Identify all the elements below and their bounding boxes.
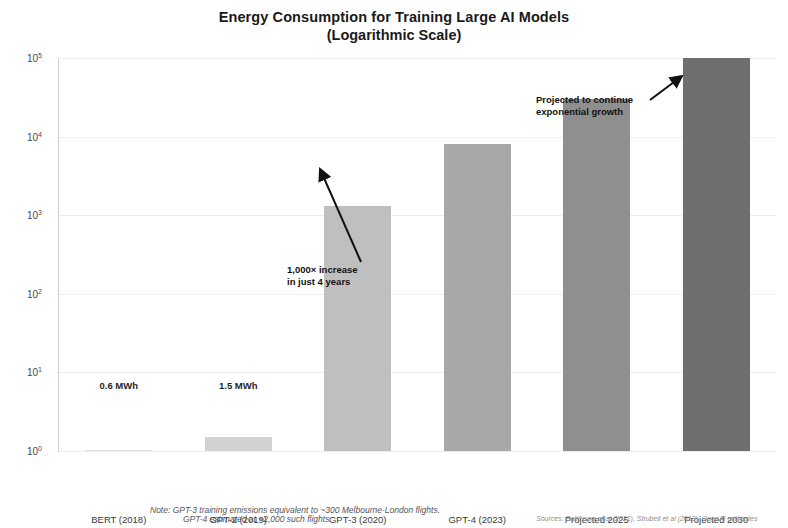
y-gridline	[59, 58, 776, 59]
chart-subtitle: (Logarithmic Scale)	[0, 26, 788, 44]
y-gridline	[59, 137, 776, 138]
chart-figure: Energy Consumption for Training Large AI…	[0, 0, 788, 528]
y-axis-tick-label: 105	[2, 52, 42, 64]
y-axis-tick-label: 102	[2, 288, 42, 300]
annotation-growth-rate-line-1: 1,000× increase	[287, 264, 358, 276]
x-axis-tick-label: BERT (2018)	[59, 514, 179, 525]
annotation-growth-rate: 1,000× increasein just 4 years	[287, 264, 358, 288]
footnote-line-2: GPT-4 estimated at ~2,000 such flights.	[183, 514, 332, 524]
y-gridline	[59, 372, 776, 373]
chart-title: Energy Consumption for Training Large AI…	[0, 8, 788, 26]
annotation-projection-line-1: Projected to continue	[536, 94, 633, 106]
annotation-growth-rate-line-2: in just 4 years	[287, 276, 358, 288]
y-gridline	[59, 451, 776, 452]
bar-projected-2025[interactable]	[563, 99, 630, 451]
y-gridline	[59, 294, 776, 295]
bar-gpt-2-2019[interactable]	[205, 437, 272, 451]
annotation-projection: Projected to continueexponential growth	[536, 94, 633, 118]
y-axis-tick-label: 104	[2, 130, 42, 142]
sources-line: Sources: Patterson et al (2021), Strubel…	[536, 515, 757, 522]
chart-title-block: Energy Consumption for Training Large AI…	[0, 8, 788, 44]
bar-gpt-4-2023[interactable]	[444, 144, 511, 451]
x-axis-tick-label: GPT-4 (2023)	[418, 514, 538, 525]
bar-projected-2030[interactable]	[683, 58, 750, 451]
y-axis-tick-label: 101	[2, 366, 42, 378]
y-gridline	[59, 215, 776, 216]
bar-gpt-3-2020[interactable]	[324, 206, 391, 451]
y-axis-tick-label: 100	[2, 445, 42, 457]
y-axis-tick-label: 103	[2, 209, 42, 221]
bar-bert-2018[interactable]	[85, 450, 152, 451]
plot-area: 100101102103104105BERT (2018)GPT-2 (2019…	[58, 58, 776, 452]
annotation-projection-line-2: exponential growth	[536, 106, 633, 118]
bar-value-label: 0.6 MWh	[59, 380, 179, 391]
bar-value-label: 1.5 MWh	[179, 380, 299, 391]
